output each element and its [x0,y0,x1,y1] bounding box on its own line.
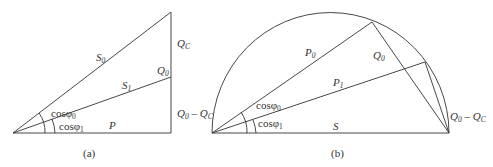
panel-a: S0 S1 Q0 QC P cosφ0 cosφ1 (a) [13,12,191,160]
caption-b: (b) [331,147,344,160]
s0-line [13,12,171,133]
label-p1: P1 [332,76,343,90]
label-qc: QC [177,37,191,51]
label-cos-phi1-b: cosφ1 [258,117,283,131]
label-q0-qc-right: Q0 – QC [450,110,487,124]
semicircle-arc [212,13,449,133]
s1-line [13,77,171,133]
label-q0-b: Q0 [373,49,385,63]
p0-line [212,22,372,133]
panel-b: P0 P1 Q0 S Q0 – QC Q0 – QC cosφ0 cosφ1 (… [177,13,487,160]
label-cos-phi0-b: cosφ0 [256,99,281,113]
label-s1: S1 [122,79,131,93]
label-s0: S0 [96,51,106,65]
label-cos-phi1: cosφ1 [59,120,84,134]
label-p: P [108,119,116,131]
q0-chord [372,22,449,133]
label-p0: P0 [304,46,316,60]
label-q0: Q0 [157,64,169,78]
angle-arc-phi1-b [253,120,256,133]
label-q0-qc-left: Q0 – QC [177,107,214,121]
q0-qc-chord [425,62,449,133]
angle-arc-phi1 [52,119,55,133]
caption-a: (a) [83,147,96,160]
label-s: S [333,120,339,132]
label-cos-phi0: cosφ0 [51,107,76,121]
p1-line [212,62,425,133]
power-triangle-diagram: S0 S1 Q0 QC P cosφ0 cosφ1 (a) P0 P1 Q0 S… [0,0,493,167]
